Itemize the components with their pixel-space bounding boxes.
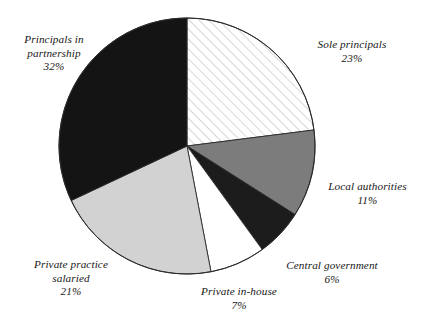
pie-label-private-practice-salaried-line1: Private practice (8, 258, 134, 272)
pie-label-principals-in-partnership: Principals in partnership 32% (2, 33, 106, 74)
pie-label-sole-principals-value: 23% (290, 52, 414, 66)
pie-label-central-government-line1: Central government (262, 259, 402, 273)
pie-label-principals-in-partnership-line1: Principals in (2, 33, 106, 47)
pie-label-private-in-house-value: 7% (178, 299, 300, 313)
pie-label-local-authorities-line1: Local authorities (312, 180, 423, 194)
pie-label-private-in-house-line1: Private in-house (178, 285, 300, 299)
pie-label-sole-principals-line1: Sole principals (290, 38, 414, 52)
pie-label-private-practice-salaried-line2: salaried (8, 272, 134, 286)
pie-label-central-government: Central government 6% (262, 259, 402, 286)
pie-label-local-authorities-value: 11% (312, 194, 423, 208)
pie-label-principals-in-partnership-value: 32% (2, 60, 106, 74)
pie-label-private-practice-salaried: Private practice salaried 21% (8, 258, 134, 299)
pie-label-private-in-house: Private in-house 7% (178, 285, 300, 312)
pie-chart-figure: Principals in partnership 32% Sole princ… (0, 0, 423, 332)
pie-label-private-practice-salaried-value: 21% (8, 285, 134, 299)
pie-label-local-authorities: Local authorities 11% (312, 180, 423, 207)
pie-label-sole-principals: Sole principals 23% (290, 38, 414, 65)
pie-label-principals-in-partnership-line2: partnership (2, 47, 106, 61)
